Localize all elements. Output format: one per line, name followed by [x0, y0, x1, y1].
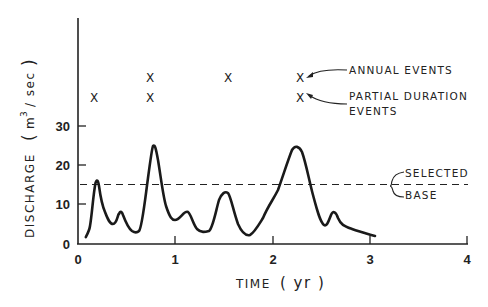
arrowhead-annual: [306, 72, 313, 78]
hydrograph-curve: [86, 146, 375, 238]
y-tick-label-20: 20: [56, 158, 70, 173]
arrow-annual: [309, 70, 347, 76]
base-label: BASE: [405, 189, 438, 201]
y-axis-title: DISCHARGE ( m 3 / sec ): [19, 58, 39, 238]
partial-duration-marker: X: [146, 91, 154, 105]
annual-events-label: ANNUAL EVENTS: [349, 64, 453, 76]
partial-duration-marker: X: [90, 91, 98, 105]
x-axis-title-text: TIME: [235, 277, 271, 291]
x-tick-label-1: 1: [171, 252, 178, 267]
y-axis-unit-sup: 3: [19, 110, 29, 117]
y-tick-label-0: 0: [63, 237, 70, 252]
x-tick-label-0: 0: [74, 252, 81, 267]
x-ticks: [175, 236, 467, 244]
y-tick-label-30: 30: [56, 119, 70, 134]
y-axis-paren-open: (: [19, 133, 39, 141]
y-axis-paren-close: ): [19, 58, 39, 66]
arrow-heads: [306, 72, 313, 99]
x-tick-label-2: 2: [269, 252, 276, 267]
x-tick-label-3: 3: [366, 252, 373, 267]
annual-event-marker: X: [224, 71, 232, 85]
annual-event-marker: X: [146, 71, 154, 85]
y-tick-label-10: 10: [56, 197, 70, 212]
x-axis-title: TIME ( yr ): [235, 274, 325, 292]
partial-duration-marker: X: [296, 91, 304, 105]
annotation-arrows: [309, 70, 347, 104]
y-axis-unit-sec: / sec: [23, 71, 37, 107]
arrow-partial: [309, 95, 347, 104]
discharge-chart: 0 10 20 30 0 1 2 3 4 TIME ( yr ) DISCHAR…: [0, 0, 488, 307]
x-axis-title-unit: ( yr ): [280, 274, 325, 292]
arrowhead-partial: [306, 93, 313, 99]
x-tick-label-4: 4: [463, 252, 471, 267]
y-axis-title-text: DISCHARGE: [23, 153, 37, 238]
partial-duration-markers: X X X: [90, 91, 304, 105]
y-ticks: [78, 126, 86, 204]
partial-duration-label-line1: PARTIAL DURATION: [349, 90, 468, 102]
selected-label: SELECTED: [405, 167, 469, 179]
annual-event-marker: X: [296, 71, 304, 85]
annual-event-markers: X X X: [146, 71, 304, 85]
partial-duration-label-line2: EVENTS: [349, 105, 398, 117]
